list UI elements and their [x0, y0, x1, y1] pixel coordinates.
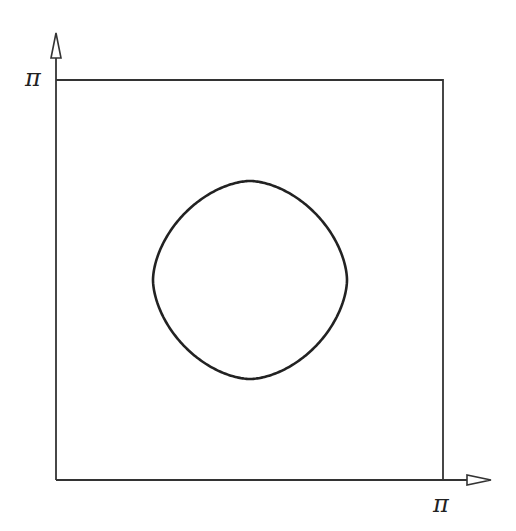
x-axis-label: π	[433, 492, 449, 516]
y-axis-label: π	[25, 66, 41, 90]
square-boundary	[56, 80, 443, 480]
closed-curve	[153, 181, 347, 379]
x-axis-arrow-icon	[467, 475, 491, 485]
diagram-canvas	[0, 0, 516, 531]
y-axis-arrow-icon	[51, 33, 61, 58]
